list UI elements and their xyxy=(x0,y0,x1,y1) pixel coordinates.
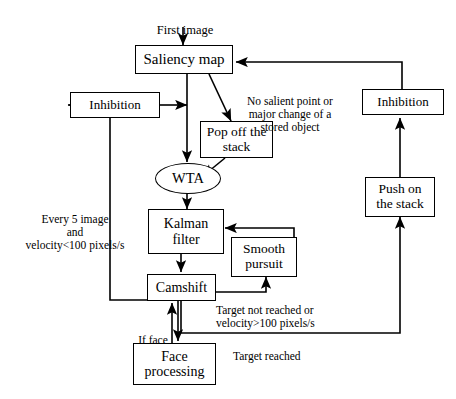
edge-label-if-face: If face xyxy=(127,321,179,347)
node-push-on-the-stack[interactable]: Push on the stack xyxy=(365,177,435,217)
edge-label-if-face-text: If face xyxy=(138,334,168,346)
node-wta[interactable]: WTA xyxy=(155,163,221,194)
edge-label-target-reached-text: Target reached xyxy=(233,350,301,362)
node-inhibition-left-label: Inhibition xyxy=(89,98,140,112)
edge-label-target-not-reached: Target not reached or velocity>100 pixel… xyxy=(216,291,364,330)
flowchart-canvas: Saliency map Inhibition Inhibition Pop o… xyxy=(0,0,456,399)
node-kalman-filter[interactable]: Kalman filter xyxy=(148,209,224,254)
edge-saliency-to-pop xyxy=(209,74,231,121)
node-face-processing[interactable]: Face processing xyxy=(133,343,216,385)
edge-label-every-5-image: Every 5 image and velocity<100 pixels/s xyxy=(6,200,144,252)
node-saliency-map-label: Saliency map xyxy=(143,51,224,67)
edge-label-target-not-reached-text: Target not reached or velocity>100 pixel… xyxy=(216,304,315,329)
node-push-on-the-stack-label: Push on the stack xyxy=(376,182,424,211)
edge-label-target-reached: Target reached xyxy=(233,337,329,363)
edge-smooth-to-kalman xyxy=(225,228,294,237)
node-kalman-filter-label: Kalman filter xyxy=(164,216,208,246)
node-inhibition-right-label: Inhibition xyxy=(377,95,428,109)
edge-camshift-to-smooth xyxy=(216,277,266,292)
node-inhibition-right[interactable]: Inhibition xyxy=(362,89,444,115)
edge-label-first-image: First image xyxy=(148,9,222,37)
edge-label-every-5-image-text: Every 5 image and velocity<100 pixels/s xyxy=(26,213,125,251)
node-camshift-label: Camshift xyxy=(156,280,207,295)
node-wta-label: WTA xyxy=(172,170,204,187)
node-smooth-pursuit-label: Smooth pursuit xyxy=(243,242,285,271)
node-inhibition-left[interactable]: Inhibition xyxy=(70,92,160,118)
edge-label-no-salient-point: No salient point or major change of a st… xyxy=(232,82,348,134)
node-saliency-map[interactable]: Saliency map xyxy=(135,45,233,74)
node-smooth-pursuit[interactable]: Smooth pursuit xyxy=(231,237,297,277)
node-face-processing-label: Face processing xyxy=(145,349,205,379)
edge-label-no-salient-point-text: No salient point or major change of a st… xyxy=(247,95,333,133)
node-camshift[interactable]: Camshift xyxy=(147,274,216,301)
edge-label-first-image-text: First image xyxy=(157,23,214,37)
